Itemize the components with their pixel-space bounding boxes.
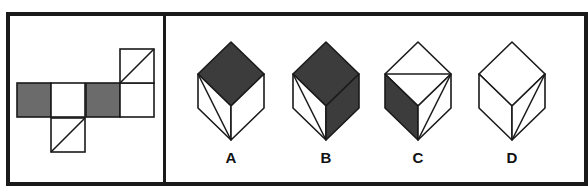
option-label-a[interactable]: A bbox=[216, 149, 246, 166]
cube-option-c[interactable] bbox=[385, 42, 451, 140]
cube-option-d[interactable] bbox=[479, 42, 545, 140]
option-label-b[interactable]: B bbox=[311, 149, 341, 166]
option-label-c[interactable]: C bbox=[403, 149, 433, 166]
option-label-d[interactable]: D bbox=[497, 149, 527, 166]
cube-option-b[interactable] bbox=[293, 42, 359, 140]
cube-option-a[interactable] bbox=[198, 42, 264, 140]
